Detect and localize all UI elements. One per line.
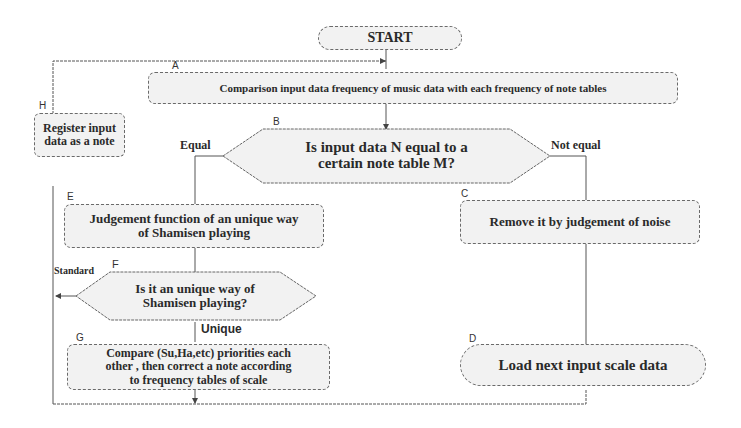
node-f-label-line1: Is it an unique way of <box>135 282 255 296</box>
node-c-label: Remove it by judgement of noise <box>490 215 671 229</box>
node-d-terminator: Load next input scale data <box>460 344 706 386</box>
node-e-id: E <box>67 191 74 202</box>
node-g-label-line2: other , then correct a note according <box>106 360 292 373</box>
edge-label-not-equal: Not equal <box>551 138 601 153</box>
node-f-label: Is it an unique way of Shamisen playing? <box>110 273 280 319</box>
node-g-process: Compare (Su,Ha,etc) priorities each othe… <box>67 344 330 390</box>
node-a-process: Comparison input data frequency of music… <box>148 72 678 104</box>
node-e-process: Judgement function of an unique way of S… <box>64 204 324 248</box>
flowchart: START A Comparison input data frequency … <box>0 0 741 428</box>
edge-label-equal: Equal <box>180 138 211 153</box>
node-f-id: F <box>112 258 119 270</box>
node-f-label-line2: Shamisen playing? <box>143 296 247 310</box>
start-label: START <box>367 30 412 45</box>
node-h-process: Register input data as a note <box>34 113 125 157</box>
edge-label-standard: Standard <box>54 265 94 276</box>
node-g-label-line3: to frequency tables of scale <box>130 374 268 387</box>
node-b-label-line2: certain note table M? <box>318 156 455 172</box>
node-c-process: Remove it by judgement of noise <box>460 200 700 244</box>
node-b-label-line1: Is input data N equal to a <box>305 140 468 156</box>
node-a-id: A <box>172 60 179 71</box>
node-d-label: Load next input scale data <box>498 357 667 374</box>
node-b-id: B <box>273 116 280 127</box>
node-e-label-line2: of Shamisen playing <box>138 226 250 240</box>
node-b-label: Is input data N equal to a certain note … <box>263 131 510 181</box>
node-h-id: H <box>39 100 46 111</box>
node-d-id: D <box>469 333 476 344</box>
start-terminator: START <box>318 26 462 50</box>
node-g-id: G <box>76 332 84 343</box>
node-c-id: C <box>461 188 468 199</box>
edge-label-unique: Unique <box>201 322 242 336</box>
node-e-label-line1: Judgement function of an unique way <box>89 212 298 226</box>
node-a-label: Comparison input data frequency of music… <box>219 82 606 94</box>
node-h-label-line2: data as a note <box>44 135 114 148</box>
